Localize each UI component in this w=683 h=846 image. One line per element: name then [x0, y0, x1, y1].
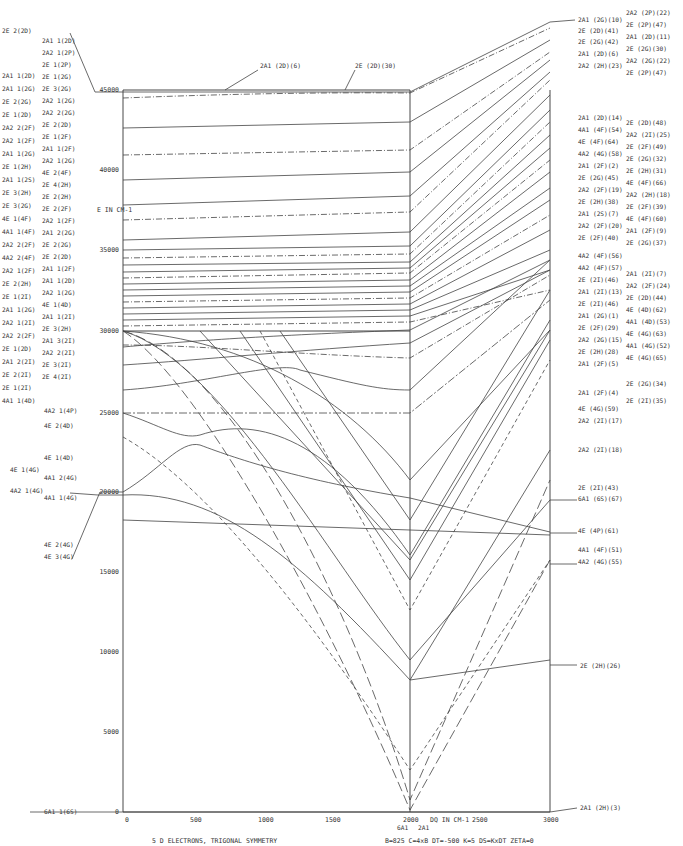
y-tick-45000: 45000: [99, 86, 119, 94]
right-label: 2A1 (2I)(7): [626, 270, 667, 277]
right-label: 4A1 (4F)(51): [578, 546, 623, 553]
right-label: 2E (2P)(47): [626, 21, 667, 28]
left-label: 2A1 1(2D): [2, 72, 36, 79]
right-labels-col2: 2A2 (2P)(22) 2E (2P)(47) 2A1 (2D)(11) 2E…: [626, 9, 671, 404]
right-label: 6A1 (6S)(67): [578, 495, 623, 502]
left-label: 2E 4(2H): [42, 181, 72, 188]
right-label: 2E (2F)(39): [626, 203, 667, 210]
right-label: 2E (2G)(34): [626, 380, 667, 387]
right-label: 2E (2G)(37): [626, 239, 667, 246]
right-label: 4A1 (4D)(53): [626, 318, 671, 325]
x-tick-0: 0: [125, 816, 129, 824]
left-label: 2A1 3(2I): [42, 337, 76, 344]
right-label: 4A2 (4F)(56): [578, 252, 623, 259]
right-label: 2A2 (2H)(23): [578, 62, 623, 69]
right-label: 2A1 (2G)(1): [578, 312, 619, 319]
chart-parameters: B=825 C=4xB DT=-500 K=5 DS=KxDT ZETA=0: [385, 837, 534, 845]
left-label: 2A2 1(2G): [42, 97, 76, 104]
right-labels-col1: 2A1 (2G)(10) 2E (2D)(41) 2E (2G)(42) 2A1…: [578, 16, 623, 811]
left-label: 2A2 1(2G): [42, 289, 76, 296]
left-label: 2A2 2(2F): [2, 332, 36, 339]
annotation: 2A1 (2D)(6): [260, 62, 301, 69]
left-label: 4E 3(4G): [44, 553, 74, 560]
right-label: 2A1 (2D)(6): [578, 50, 619, 57]
left-label: 2E 3(2H): [42, 325, 72, 332]
left-label: 4A2 1(4P): [44, 407, 78, 414]
left-label: 2E 1(2P): [42, 61, 72, 68]
right-connectors: [550, 20, 577, 812]
right-label: 2A1 (2F)(5): [578, 360, 619, 367]
left-label: 2A1 1(2G): [2, 306, 36, 313]
right-label: 2A2 (2I)(18): [578, 446, 623, 453]
x-axis-label: DQ IN CM-1: [430, 816, 469, 824]
right-label: 4E (4G)(59): [578, 405, 619, 412]
right-label: 4E (4G)(65): [626, 354, 667, 361]
y-axis-ticks: 0 5000 10000 15000 20000 25000 30000 350…: [97, 86, 132, 816]
right-label: 2E (2I)(46): [578, 276, 619, 283]
right-label: 2A2 (2I)(25): [626, 131, 671, 138]
right-label: 2A1 (2D)(14): [578, 114, 623, 121]
top-annotations: 2A1 (2D)(6) 2E (2D)(30): [225, 62, 396, 90]
tanabe-sugano-diagram: 0 5000 10000 15000 20000 25000 30000 350…: [0, 0, 683, 846]
crossover-2a1: 2A1: [418, 824, 429, 831]
x-axis-ticks: 0 500 1000 1500 2000 2500 3000 DQ IN CM-…: [125, 816, 559, 831]
right-label: 2A2 (2G)(15): [578, 336, 623, 343]
left-label: 4A1 1(4D): [2, 397, 36, 404]
right-label: 2A1 (2G)(10): [578, 16, 623, 23]
left-label: 2A1 1(2F): [42, 145, 76, 152]
right-label: 2E (2F)(29): [578, 324, 619, 331]
left-label: 2E 1(2D): [2, 111, 32, 118]
right-label: 2E (2G)(30): [626, 45, 667, 52]
left-label: 2A2 1(2F): [2, 267, 36, 274]
right-label: 2A1 (2F)(2): [578, 162, 619, 169]
right-label: 2E (2P)(47): [626, 69, 667, 76]
left-label: 2E 2(2H): [42, 193, 72, 200]
lower-region-curves: [123, 260, 550, 812]
left-label: 2A1 1(2G): [2, 150, 36, 157]
x-tick-1000: 1000: [258, 816, 274, 824]
right-label: 2E (2D)(41): [578, 27, 619, 34]
right-label: 4E (4F)(64): [578, 138, 619, 145]
left-label: 2A1 1(2D): [42, 277, 76, 284]
right-label: 2E (2H)(31): [626, 167, 667, 174]
y-tick-15000: 15000: [99, 568, 119, 576]
right-label: 2E (2G)(42): [578, 38, 619, 45]
right-label: 2A2 (2F)(19): [578, 186, 623, 193]
right-label: 2A1 (2I)(13): [578, 288, 623, 295]
left-label: 2A2 1(2F): [2, 137, 36, 144]
left-label: 2A1 1(2D): [42, 37, 76, 44]
left-label: 4A1 1(4G): [44, 494, 78, 501]
left-label: 2E 1(2F): [42, 133, 72, 140]
right-label: 2E (2H)(26): [580, 662, 621, 669]
right-label: 2E (2D)(44): [626, 294, 667, 301]
right-label: 4E (4G)(63): [626, 330, 667, 337]
left-label: 2A1 1(2G): [2, 85, 36, 92]
left-label: 2E 2(2G): [2, 98, 32, 105]
left-label: 2A2 2(2G): [42, 109, 76, 116]
left-label: 2E 1(2I): [2, 384, 32, 391]
right-label: 4A1 (4F)(54): [578, 126, 623, 133]
right-label: 4A1 (4G)(52): [626, 342, 671, 349]
left-label: 4E 2(4G): [44, 541, 74, 548]
left-label: 2A1 2(2G): [42, 229, 76, 236]
left-label: 2E 2(2D): [42, 121, 72, 128]
right-label: 2A2 (2I)(17): [578, 417, 623, 424]
left-label: 2E 3(2G): [2, 202, 32, 209]
left-label: 4A1 1(4F): [2, 228, 36, 235]
left-label: 4E 1(4F): [2, 215, 32, 222]
right-label: 2A2 (2G)(22): [626, 57, 671, 64]
left-label: 2E 3(2G): [42, 85, 72, 92]
left-label: 4A1 2(4G): [44, 474, 78, 481]
x-tick-1500: 1500: [325, 816, 341, 824]
left-label: 2A2 1(2I): [2, 319, 36, 326]
left-label: 4E 2(4F): [42, 169, 72, 176]
left-label: 2E 2(2D): [2, 27, 32, 34]
left-labels-col1: 2E 2(2D) 2A1 1(2D) 2A1 1(2G) 2E 2(2G) 2E…: [2, 27, 44, 494]
right-label: 2A2 (2H)(18): [626, 191, 671, 198]
right-label: 2A2 (2F)(20): [578, 222, 623, 229]
right-label: 2E (2F)(40): [578, 234, 619, 241]
right-label: 2A1 (2H)(3): [580, 804, 621, 811]
left-label: 2E 2(2I): [2, 371, 32, 378]
annotation: 2E (2D)(30): [355, 62, 396, 69]
left-label: 2E 2(2H): [2, 280, 32, 287]
